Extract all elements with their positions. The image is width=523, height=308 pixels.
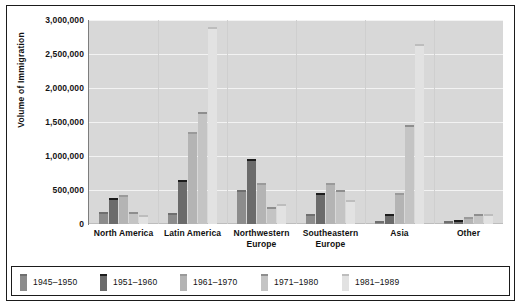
bar-top-edge <box>375 221 385 223</box>
y-tick-label: 1,000,000 <box>6 151 84 161</box>
bar[interactable] <box>395 193 405 224</box>
plot-area <box>89 20 503 224</box>
bar[interactable] <box>415 44 425 224</box>
legend-swatch-body <box>180 274 187 291</box>
bar-body <box>346 200 356 224</box>
group-separator <box>434 20 435 224</box>
bar[interactable] <box>247 159 257 224</box>
legend-item[interactable]: 1951–1960 <box>100 273 157 291</box>
bar-top-edge <box>464 217 474 219</box>
x-category-label-line: Europe <box>296 239 365 250</box>
legend-item[interactable]: 1971–1980 <box>261 273 318 291</box>
legend-swatch-body <box>261 274 268 291</box>
legend-item[interactable]: 1981–1989 <box>342 273 399 291</box>
group-separator <box>227 20 228 224</box>
bar-group <box>89 20 158 224</box>
bar[interactable] <box>99 212 109 224</box>
bar[interactable] <box>454 220 464 224</box>
bar-body <box>415 44 425 224</box>
bar-top-edge <box>277 204 287 206</box>
bar-top-edge <box>257 183 267 185</box>
bar-group <box>296 20 365 224</box>
bar-body <box>237 190 247 224</box>
legend-label: 1951–1960 <box>113 277 157 287</box>
bar-body <box>336 190 346 224</box>
bar[interactable] <box>267 207 277 224</box>
bar-body <box>119 195 129 224</box>
bar[interactable] <box>336 190 346 224</box>
x-axis-category-labels: North AmericaLatin AmericaNorthwesternEu… <box>89 228 503 258</box>
bar[interactable] <box>375 221 385 224</box>
bar[interactable] <box>198 112 208 224</box>
legend-label: 1981–1989 <box>355 277 399 287</box>
legend-swatch-top-edge <box>20 274 27 276</box>
bar-body <box>326 183 336 224</box>
bar[interactable] <box>326 183 336 224</box>
x-category-label-line: Northwestern <box>227 228 296 239</box>
bar-top-edge <box>474 214 484 216</box>
bar-top-edge <box>346 200 356 202</box>
bar-body <box>405 125 415 224</box>
bar[interactable] <box>474 214 484 224</box>
legend-swatch <box>342 274 349 291</box>
bar[interactable] <box>277 204 287 224</box>
bar[interactable] <box>405 125 415 224</box>
legend-item[interactable]: 1945–1950 <box>20 273 77 291</box>
bar[interactable] <box>484 214 494 224</box>
bar[interactable] <box>139 215 149 224</box>
x-category-label-line: Europe <box>227 239 296 250</box>
legend-swatch-top-edge <box>100 274 107 276</box>
bar-top-edge <box>99 212 109 214</box>
bar-top-edge <box>208 27 218 29</box>
bar[interactable] <box>306 214 316 224</box>
bar-group <box>365 20 434 224</box>
bar[interactable] <box>119 195 129 224</box>
x-category-label: NorthwesternEurope <box>227 228 296 249</box>
x-category-label-line: Asia <box>365 228 434 239</box>
bar-top-edge <box>454 220 464 222</box>
x-category-label: Latin America <box>158 228 227 239</box>
bar-top-edge <box>405 125 415 127</box>
legend-swatch <box>20 274 27 291</box>
bar[interactable] <box>346 200 356 224</box>
bar[interactable] <box>129 212 139 224</box>
x-category-label: SoutheasternEurope <box>296 228 365 249</box>
bar-top-edge <box>484 214 494 216</box>
bar-top-edge <box>267 207 277 209</box>
bar-top-edge <box>198 112 208 114</box>
bar-body <box>208 27 218 224</box>
legend-item[interactable]: 1961–1970 <box>180 273 237 291</box>
bar-top-edge <box>336 190 346 192</box>
bar[interactable] <box>316 193 326 224</box>
bar-top-edge <box>109 198 119 200</box>
bar-top-edge <box>385 214 395 216</box>
bar-body <box>277 204 287 224</box>
bar[interactable] <box>464 217 474 224</box>
bar[interactable] <box>257 183 267 224</box>
bar-group <box>434 20 503 224</box>
legend-swatch-body <box>20 274 27 291</box>
bar-top-edge <box>306 214 316 216</box>
legend-swatch-body <box>342 274 349 291</box>
bar-body <box>257 183 267 224</box>
x-category-label-line: Southeastern <box>296 228 365 239</box>
bar[interactable] <box>188 132 198 224</box>
bar[interactable] <box>385 214 395 224</box>
bar[interactable] <box>208 27 218 224</box>
y-tick-label: 0 <box>6 219 84 229</box>
bar-top-edge <box>178 180 188 182</box>
group-separator <box>296 20 297 224</box>
legend-swatch-body <box>100 274 107 291</box>
bar[interactable] <box>178 180 188 224</box>
bar-top-edge <box>316 193 326 195</box>
bar[interactable] <box>168 213 178 224</box>
bar[interactable] <box>109 198 119 224</box>
x-category-label: Asia <box>365 228 434 239</box>
bar[interactable] <box>444 221 454 224</box>
bar-body <box>267 207 277 224</box>
group-separator <box>158 20 159 224</box>
bar-top-edge <box>444 221 454 223</box>
bar-top-edge <box>247 159 257 161</box>
bar-top-edge <box>119 195 129 197</box>
bar[interactable] <box>237 190 247 224</box>
